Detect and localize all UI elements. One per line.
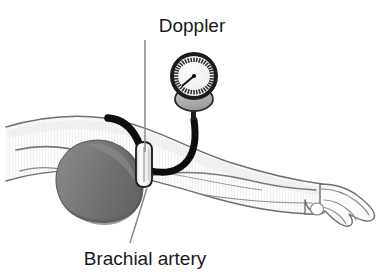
illustration-canvas: Doppler Brachial artery <box>0 0 389 274</box>
arm-body-fill <box>6 116 340 214</box>
brachial-artery-label: Brachial artery <box>84 248 207 269</box>
gauge-needle-hub <box>192 74 196 78</box>
doppler-blood-pressure-illustration: Doppler Brachial artery <box>0 0 389 274</box>
thumb-tip <box>311 203 324 215</box>
doppler-probe <box>136 142 152 187</box>
pressure-gauge <box>170 52 218 100</box>
doppler-label: Doppler <box>159 15 226 36</box>
shoulder-fade <box>0 100 46 210</box>
patient-arm <box>0 100 340 214</box>
